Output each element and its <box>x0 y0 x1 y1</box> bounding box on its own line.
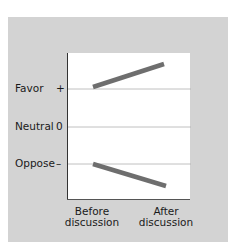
x-label-before-line2: discussion <box>52 217 132 228</box>
x-label-before: Before discussion <box>52 206 132 228</box>
y-label-neutral: Neutral <box>15 120 54 132</box>
y-label-oppose: Oppose <box>15 157 55 169</box>
y-tick-minus: – <box>56 157 61 169</box>
y-label-favor: Favor <box>15 82 43 94</box>
x-label-after: After discussion <box>126 206 206 228</box>
y-tick-plus: + <box>56 82 65 94</box>
x-label-after-line2: discussion <box>126 217 206 228</box>
y-tick-zero: 0 <box>56 120 63 132</box>
